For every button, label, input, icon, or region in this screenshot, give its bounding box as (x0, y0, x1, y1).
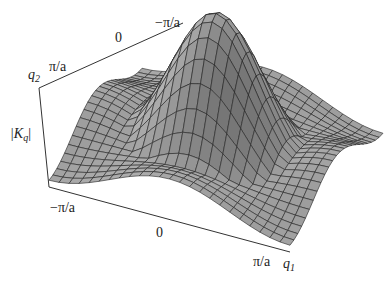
y-tick-neg-pi: −π/a (155, 16, 180, 30)
y-axis-label: q2 (28, 68, 40, 84)
x-tick-neg-pi: −π/a (50, 201, 75, 215)
surface-plot: −π/a 0 π/a q2 |Kq| −π/a 0 π/a q1 (0, 0, 392, 284)
y-tick-pi: π/a (49, 60, 66, 74)
x-axis-label: q1 (283, 257, 295, 273)
y-tick-zero: 0 (115, 31, 122, 45)
x-tick-pi: π/a (253, 255, 270, 269)
x-tick-zero: 0 (156, 226, 163, 240)
z-axis-label: |Kq| (10, 127, 31, 143)
surface-mesh (0, 0, 392, 284)
